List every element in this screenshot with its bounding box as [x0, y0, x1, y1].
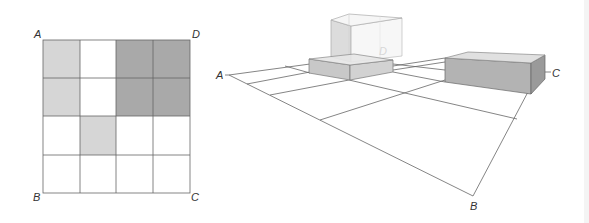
label-d-perspective: D	[379, 45, 387, 57]
label-d-top-view: D	[192, 28, 200, 40]
perspective-view: D A B C	[215, 14, 560, 212]
label-c-perspective: C	[552, 67, 560, 79]
cell-r1c3	[116, 40, 153, 78]
low-slab	[309, 54, 393, 80]
label-b-top-view: B	[33, 191, 40, 203]
cell-r1c1	[43, 40, 80, 78]
label-c-top-view: C	[191, 191, 199, 203]
figure: A D B C	[0, 0, 589, 223]
cell-r1c4	[153, 40, 190, 78]
right-edge-strip	[584, 0, 589, 223]
cell-r3c2	[80, 116, 116, 155]
cell-r2c1	[43, 78, 80, 116]
right-box	[445, 52, 545, 94]
diagram-canvas: A D B C	[0, 0, 589, 223]
label-a-top-view: A	[33, 28, 41, 40]
label-b-perspective: B	[470, 200, 477, 212]
top-view-grid: A D B C	[33, 28, 200, 203]
cell-r2c4	[153, 78, 190, 116]
cell-r2c3	[116, 78, 153, 116]
tall-transparent-box: D	[331, 14, 402, 62]
label-a-perspective: A	[215, 69, 223, 81]
